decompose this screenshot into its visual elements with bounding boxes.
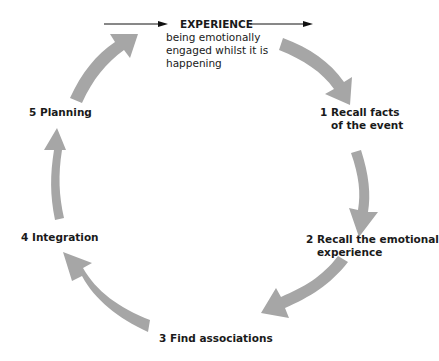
stage-4-number: 4 xyxy=(21,231,28,243)
stage-1-number: 1 xyxy=(320,106,327,118)
stage-3-text: Find associations xyxy=(170,332,273,344)
stage-5-text: Planning xyxy=(40,106,92,118)
experience-left-arrow xyxy=(104,21,168,27)
arrow-experience-to-recall-facts xyxy=(279,38,352,105)
arrow-recall-facts-to-emotional xyxy=(349,150,378,237)
experience-title: EXPERIENCE xyxy=(180,18,253,31)
arrow-associations-to-integration xyxy=(63,252,150,332)
stage-5-number: 5 xyxy=(29,106,36,118)
arrow-emotional-to-associations xyxy=(261,256,348,318)
stage-3-label: 3 Find associations xyxy=(159,332,273,345)
experience-right-arrow xyxy=(250,21,313,27)
experience-description-line-3: happening xyxy=(166,57,268,70)
stage-2-text: Recall the emotional xyxy=(317,233,439,245)
stage-5-label: 5 Planning xyxy=(29,106,92,119)
stage-2-text-line2: experience xyxy=(306,246,439,259)
arrow-planning-to-experience xyxy=(70,34,138,103)
stage-1-text: Recall facts xyxy=(331,106,400,118)
stage-2-number: 2 xyxy=(306,233,313,245)
stage-4-label: 4 Integration xyxy=(21,231,99,244)
stage-1-text-line2: of the event xyxy=(320,119,403,132)
stage-2-label: 2 Recall the emotional experience xyxy=(306,233,439,259)
experience-description: being emotionally engaged whilst it is h… xyxy=(166,31,268,70)
experience-description-line-1: being emotionally xyxy=(166,31,268,44)
stage-1-label: 1 Recall facts of the event xyxy=(320,106,403,132)
arrow-integration-to-planning xyxy=(44,128,66,220)
experience-description-line-2: engaged whilst it is xyxy=(166,44,268,57)
stage-3-number: 3 xyxy=(159,332,166,344)
stage-4-text: Integration xyxy=(32,231,99,243)
